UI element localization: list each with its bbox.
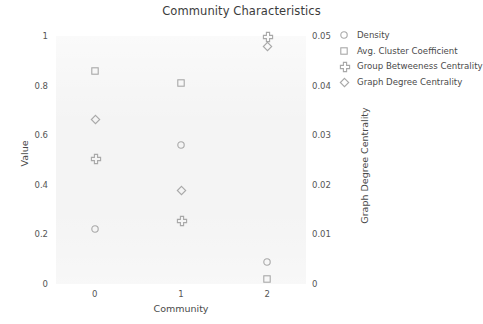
- y-axis-left-tick: 1: [43, 31, 48, 41]
- diamond-marker-icon: [336, 76, 352, 88]
- y-axis-left-tick: 0.6: [34, 130, 48, 140]
- data-point: [90, 66, 99, 75]
- y-axis-left-tick: 0: [43, 279, 48, 289]
- legend-marker-glyph: [340, 46, 349, 55]
- data-point: [90, 114, 99, 123]
- y-axis-left-label: Value: [19, 124, 30, 184]
- chart-figure: Community Characteristics 00.20.40.60.81…: [0, 0, 483, 324]
- plot-area: [56, 36, 306, 284]
- chart-title: Community Characteristics: [0, 4, 483, 18]
- legend-item-label: Density: [352, 30, 390, 40]
- data-point: [90, 153, 99, 162]
- data-point: [90, 225, 99, 234]
- x-axis-tick: 1: [178, 289, 183, 299]
- x-axis-ticks: 012: [56, 289, 306, 303]
- y-axis-left-tick: 0.4: [34, 180, 48, 190]
- legend-item-label: Graph Degree Centrality: [352, 77, 462, 87]
- y-axis-right-tick: 0.03: [312, 130, 331, 140]
- x-axis-label: Community: [56, 303, 306, 314]
- data-markers-layer: [56, 36, 306, 284]
- x-axis-tick: 2: [264, 289, 269, 299]
- data-point: [263, 257, 272, 266]
- circle-marker-icon: [336, 29, 352, 41]
- square-marker-icon: [336, 45, 352, 57]
- chart-legend: DensityAvg. Cluster CoefficientGroup Bet…: [336, 28, 481, 90]
- legend-item-label: Avg. Cluster Coefficient: [352, 46, 458, 56]
- y-axis-right-tick: 0.04: [312, 81, 331, 91]
- data-point: [177, 185, 186, 194]
- data-point: [263, 41, 272, 50]
- legend-item-label: Group Betweeness Centrality: [352, 61, 483, 71]
- legend-marker-glyph: [340, 77, 349, 86]
- data-point: [177, 215, 186, 224]
- y-axis-left-tick: 0.2: [34, 229, 48, 239]
- legend-marker-glyph: [340, 62, 349, 71]
- legend-marker-glyph: [340, 31, 349, 40]
- data-point: [263, 32, 272, 41]
- plus-marker-icon: [336, 60, 352, 72]
- y-axis-right-tick: 0.01: [312, 229, 331, 239]
- legend-item[interactable]: Group Betweeness Centrality: [336, 59, 481, 73]
- legend-item[interactable]: Density: [336, 28, 481, 42]
- y-axis-right-tick: 0.05: [312, 31, 331, 41]
- data-point: [263, 275, 272, 284]
- data-point: [177, 79, 186, 88]
- x-axis-tick: 0: [92, 289, 97, 299]
- y-axis-right-tick: 0.02: [312, 180, 331, 190]
- y-axis-right-tick: 0: [312, 279, 317, 289]
- y-axis-right-label: Graph Degree Centrality: [359, 91, 370, 241]
- data-point: [177, 141, 186, 150]
- legend-item[interactable]: Graph Degree Centrality: [336, 75, 481, 89]
- legend-item[interactable]: Avg. Cluster Coefficient: [336, 44, 481, 58]
- y-axis-left-tick: 0.8: [34, 81, 48, 91]
